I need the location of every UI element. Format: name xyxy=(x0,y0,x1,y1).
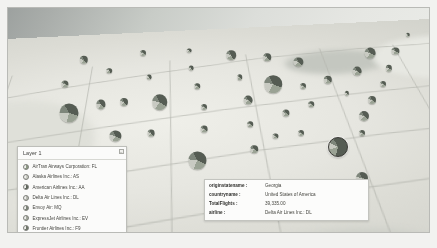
info-value: United States of America xyxy=(265,192,316,197)
pie-marker-maryland[interactable] xyxy=(380,81,386,87)
legend-item-label: Envoy Air: MQ xyxy=(33,205,62,210)
legend-item-as[interactable]: Alaska Airlines Inc.: AS xyxy=(18,172,126,182)
pie-swatch-icon xyxy=(23,215,29,221)
info-row: countryname :United States of America xyxy=(209,192,364,201)
legend-item-mq[interactable]: Envoy Air: MQ xyxy=(18,203,126,213)
legend-item-fl[interactable]: AirTran Airways Corporation: FL xyxy=(18,162,126,172)
info-row: originstatename :Georgia xyxy=(209,183,364,192)
pie-marker-new-mexico[interactable] xyxy=(148,130,155,137)
application-window: Layer 1 – AirTran Airways Corporation: F… xyxy=(0,0,437,248)
legend-item-label: Alaska Airlines Inc.: AS xyxy=(33,174,80,179)
info-value: 39,335.00 xyxy=(265,201,285,206)
pie-swatch-icon xyxy=(23,195,29,201)
pie-marker-north-dakota[interactable] xyxy=(187,48,192,53)
pie-marker-new-york[interactable] xyxy=(365,47,376,58)
legend-item-label: AirTran Airways Corporation: FL xyxy=(33,164,97,169)
pie-marker-north-carolina[interactable] xyxy=(359,111,369,121)
pie-marker-louisiana[interactable] xyxy=(250,145,258,153)
pie-marker-oklahoma[interactable] xyxy=(200,126,207,133)
pie-marker-missouri[interactable] xyxy=(244,95,253,104)
legend-item-label: Delta Air Lines Inc.: DL xyxy=(33,195,79,200)
pie-marker-georgia[interactable] xyxy=(328,137,348,157)
legend-panel[interactable]: Layer 1 – AirTran Airways Corporation: F… xyxy=(17,146,127,233)
pie-marker-pennsylvania[interactable] xyxy=(353,66,362,75)
pie-marker-south-carolina[interactable] xyxy=(359,130,365,136)
pie-marker-kentucky[interactable] xyxy=(308,102,314,108)
pie-swatch-icon xyxy=(23,174,29,180)
info-key: countryname : xyxy=(209,192,265,197)
pie-marker-idaho[interactable] xyxy=(106,68,112,74)
pie-swatch-icon xyxy=(23,164,29,170)
feature-info-panel: originstatename :Georgiacountryname :Uni… xyxy=(204,179,369,221)
pie-marker-illinois[interactable] xyxy=(264,75,282,93)
legend-title: Layer 1 xyxy=(23,149,122,158)
legend-item-dl[interactable]: Delta Air Lines Inc.: DL xyxy=(18,192,126,202)
pie-marker-kansas[interactable] xyxy=(201,104,207,110)
info-key: airline : xyxy=(209,210,265,215)
pie-marker-wyoming[interactable] xyxy=(147,75,152,80)
legend-titlebar: Layer 1 – xyxy=(18,147,126,160)
legend-item-f9[interactable]: Frontier Airlines Inc.: F9 xyxy=(18,223,126,233)
legend-item-label: American Airlines Inc.: AA xyxy=(33,185,85,190)
legend-item-list[interactable]: AirTran Airways Corporation: FLAlaska Ai… xyxy=(18,160,126,233)
pie-marker-indiana[interactable] xyxy=(300,83,306,89)
pie-marker-colorado[interactable] xyxy=(152,94,168,110)
pie-swatch-icon xyxy=(23,184,29,190)
pie-marker-minnesota[interactable] xyxy=(226,50,236,60)
pie-marker-wisconsin[interactable] xyxy=(263,53,271,61)
pie-marker-alabama[interactable] xyxy=(298,130,304,136)
pie-marker-arkansas[interactable] xyxy=(247,122,253,128)
pie-swatch-icon xyxy=(23,205,29,211)
info-key: TotalFlights : xyxy=(209,201,265,206)
legend-item-ev[interactable]: ExpressJet Airlines Inc.: EV xyxy=(18,213,126,223)
map-viewport[interactable]: Layer 1 – AirTran Airways Corporation: F… xyxy=(7,7,430,233)
pie-marker-utah[interactable] xyxy=(120,98,128,106)
pie-marker-iowa[interactable] xyxy=(237,75,243,81)
legend-item-aa[interactable]: American Airlines Inc.: AA xyxy=(18,182,126,192)
info-key: originstatename : xyxy=(209,183,265,188)
info-row: airline :Delta Air Lines Inc.: DL xyxy=(209,210,364,219)
pie-swatch-icon xyxy=(23,225,29,231)
pie-marker-california[interactable] xyxy=(60,104,79,123)
pie-marker-montana[interactable] xyxy=(140,50,146,56)
pie-marker-virginia[interactable] xyxy=(368,96,376,104)
info-row: TotalFlights :39,335.00 xyxy=(209,201,364,210)
legend-item-label: Frontier Airlines Inc.: F9 xyxy=(33,226,81,231)
info-value: Delta Air Lines Inc.: DL xyxy=(265,210,312,215)
pie-marker-south-dakota[interactable] xyxy=(189,66,194,71)
legend-item-label: ExpressJet Airlines Inc.: EV xyxy=(33,216,89,221)
info-value: Georgia xyxy=(265,183,281,188)
pie-marker-nebraska[interactable] xyxy=(195,84,201,90)
legend-collapse-icon[interactable]: – xyxy=(119,149,124,154)
